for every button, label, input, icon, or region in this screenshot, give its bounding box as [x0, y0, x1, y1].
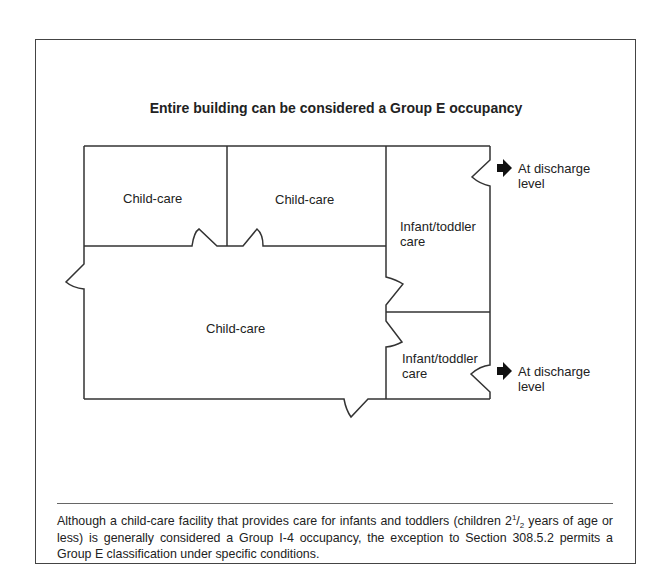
- exit-label-line2: level: [518, 176, 590, 191]
- exit-label-upper: At discharge level: [518, 161, 590, 191]
- wall-bottom: [84, 399, 490, 417]
- arrow-right-icon: [497, 362, 512, 380]
- wall-left-large-room: [66, 246, 84, 399]
- figure-caption: Although a child-care facility that prov…: [57, 513, 613, 563]
- wall-upper-bottom: [84, 229, 386, 246]
- room-label-infant-toddler-1: Infant/toddler care: [400, 219, 488, 249]
- arrow-right-icon: [497, 159, 512, 177]
- room-label-child-care-2: Child-care: [275, 192, 334, 207]
- wall-divider-infant: [386, 146, 403, 399]
- caption-text-1: Although a child-care facility that prov…: [57, 514, 512, 528]
- room-label-child-care-1: Child-care: [123, 191, 182, 206]
- room-label-infant-toddler-2: Infant/toddler care: [402, 351, 490, 381]
- exit-label-line1: At discharge: [518, 364, 590, 379]
- exit-label-line1: At discharge: [518, 161, 590, 176]
- floor-plan: [0, 0, 672, 587]
- exit-label-lower: At discharge level: [518, 364, 590, 394]
- room-label-child-care-large: Child-care: [206, 321, 265, 336]
- caption-divider: [57, 503, 613, 504]
- exit-label-line2: level: [518, 379, 590, 394]
